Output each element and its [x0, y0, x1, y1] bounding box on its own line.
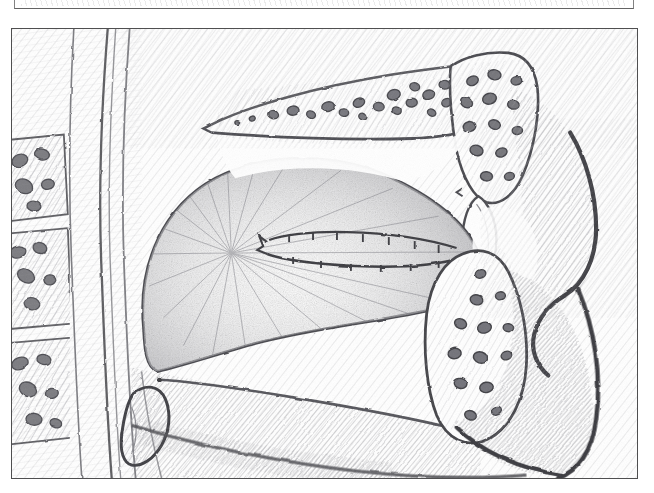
figure-frame: [11, 28, 638, 479]
paper-grain: [12, 29, 637, 478]
page-canvas: [0, 0, 654, 493]
anatomical-drawing: [12, 29, 637, 478]
previous-figure-border-sliver: [14, 0, 634, 9]
sagittal-oral-cavity-illustration: [12, 29, 637, 478]
previous-figure-ghost-hatching: [21, 0, 627, 6]
